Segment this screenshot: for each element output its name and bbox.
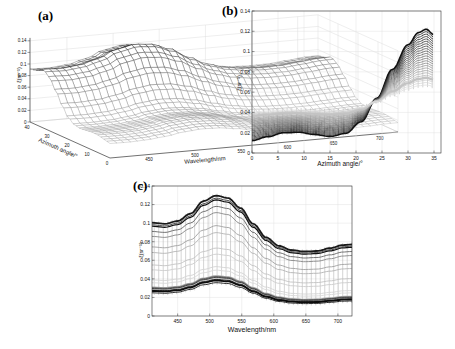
panel-a-label: (a) — [38, 8, 53, 24]
svg-text:650: 650 — [302, 318, 311, 324]
svg-text:700: 700 — [376, 136, 384, 141]
svg-text:30: 30 — [405, 155, 411, 161]
plots-canvas: 00.020.040.060.080.10.120.14010203040450… — [0, 0, 455, 349]
svg-text:0.06: 0.06 — [18, 85, 27, 90]
svg-text:450: 450 — [173, 318, 182, 324]
svg-text:0.1: 0.1 — [243, 48, 250, 54]
svg-text:0.02: 0.02 — [140, 294, 150, 300]
svg-text:0: 0 — [24, 120, 27, 125]
figure-three-panel-chart: 00.020.040.060.080.10.120.14010203040450… — [0, 0, 455, 349]
panel-c-label: (c) — [133, 178, 147, 194]
svg-text:0: 0 — [106, 161, 109, 166]
svg-text:700: 700 — [334, 318, 343, 324]
svg-text:0.04: 0.04 — [240, 109, 250, 115]
svg-text:0.14: 0.14 — [240, 8, 250, 14]
svg-text:0.14: 0.14 — [18, 38, 27, 43]
svg-text:0.02: 0.02 — [240, 130, 250, 136]
svg-text:5: 5 — [277, 155, 280, 161]
svg-text:40: 40 — [24, 125, 30, 130]
svg-text:0.02: 0.02 — [18, 108, 27, 113]
svg-text:0.04: 0.04 — [140, 276, 150, 282]
svg-text:500: 500 — [206, 318, 215, 324]
svg-text:35: 35 — [431, 155, 437, 161]
svg-text:0: 0 — [251, 155, 254, 161]
panel-a-z-axis-label: ξ(sr⁻¹) — [0, 72, 54, 78]
svg-text:600: 600 — [270, 318, 279, 324]
panel-c-plot-curves — [152, 196, 352, 304]
svg-text:0.04: 0.04 — [18, 96, 27, 101]
svg-text:450: 450 — [145, 157, 153, 162]
svg-text:0.1: 0.1 — [143, 220, 150, 226]
panel-b-label: (b) — [222, 3, 238, 19]
panel-b-x-axis-label: Azimuth angle/° — [305, 160, 375, 167]
panel-c-plot: 00.020.040.060.080.10.120.14450500550600… — [140, 183, 352, 324]
svg-text:0: 0 — [147, 313, 150, 319]
svg-text:0.12: 0.12 — [140, 201, 150, 207]
panel-a-surface-plot: 00.020.040.060.080.10.120.14010203040450… — [18, 15, 398, 166]
svg-text:0.12: 0.12 — [240, 28, 250, 34]
svg-text:600: 600 — [284, 145, 292, 150]
svg-text:550: 550 — [238, 318, 247, 324]
svg-text:0.08: 0.08 — [240, 69, 250, 75]
panel-c-y-axis-label: ξ(sr⁻¹) — [106, 247, 176, 253]
svg-text:0.12: 0.12 — [18, 50, 27, 55]
svg-text:25: 25 — [379, 155, 385, 161]
panel-b-y-axis-label: ξ(sr⁻¹) — [204, 80, 274, 86]
panel-c-x-axis-label: Wavelength/nm — [217, 326, 287, 333]
svg-text:0.06: 0.06 — [140, 257, 150, 263]
svg-text:650: 650 — [330, 141, 338, 146]
